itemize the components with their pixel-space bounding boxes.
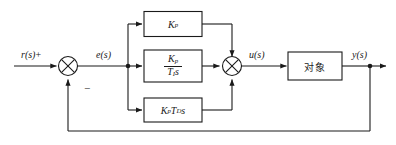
plant-block-rect <box>288 52 342 80</box>
control-signal-label: u(s) <box>249 50 265 60</box>
derivative-block-rect <box>144 98 202 122</box>
block-diagram-canvas: r(s)+ e(s) − u(s) y(s) Kp Kp TIs KpTDs 对… <box>0 0 396 145</box>
proportional-block-rect <box>144 12 202 37</box>
reference-signal-text: r(s) <box>21 49 35 60</box>
error-signal-label: e(s) <box>96 50 111 60</box>
output-signal-label: y(s) <box>352 50 367 60</box>
feedback-negative-sign: − <box>84 83 90 94</box>
reference-sign-text: + <box>35 49 41 60</box>
integral-block-rect <box>144 50 202 82</box>
reference-signal-label: r(s)+ <box>21 50 41 60</box>
diagram-vector-layer <box>0 0 396 145</box>
